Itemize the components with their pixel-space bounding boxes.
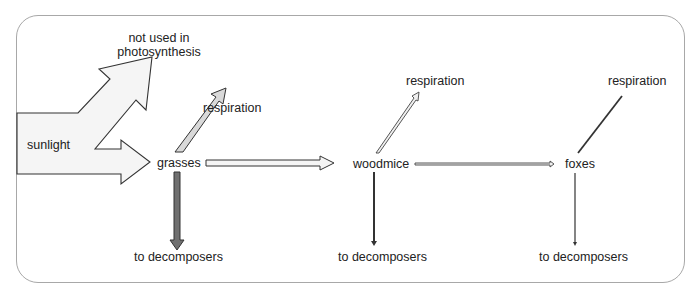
woodmice-label: woodmice — [353, 157, 409, 171]
not-used-label: not used in photosynthesis — [104, 31, 214, 59]
grasses-decomposer-arrow — [170, 172, 184, 250]
woodmice-decomposer-head — [371, 241, 377, 246]
woodmice-to-foxes-arrow — [415, 161, 554, 167]
foxes-decomposer-head — [573, 242, 577, 246]
not-used-line-2: photosynthesis — [104, 45, 214, 59]
decomposers-label-foxes: to decomposers — [539, 250, 628, 264]
sunlight-arrow-shape — [17, 57, 152, 184]
respiration-label-grasses: respiration — [203, 101, 261, 115]
sunlight-label: sunlight — [27, 138, 70, 152]
foxes-respiration-line — [578, 96, 622, 153]
grasses-label: grasses — [157, 156, 201, 170]
grasses-to-woodmice-arrow — [206, 156, 334, 170]
not-used-line-1: not used in — [104, 31, 214, 45]
decomposers-label-woodmice: to decomposers — [338, 250, 427, 264]
decomposers-label-grasses: to decomposers — [134, 250, 223, 264]
foxes-label: foxes — [565, 157, 595, 171]
woodmice-respiration-arrow — [376, 92, 419, 153]
grasses-respiration-arrow — [175, 88, 226, 152]
respiration-label-foxes: respiration — [608, 74, 666, 88]
respiration-label-woodmice: respiration — [406, 74, 464, 88]
